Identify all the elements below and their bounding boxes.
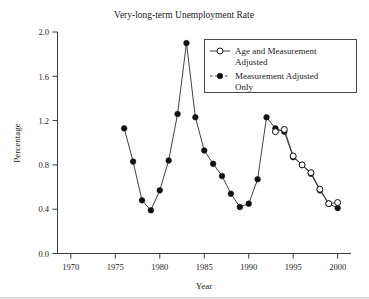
data-point-marker [219,173,225,179]
y-tick-label: 1.6 [38,72,49,82]
data-point-marker [272,129,278,135]
unemployment-rate-line-chart: Very-long-term Unemployment Rate 0.00.40… [0,0,369,299]
data-point-marker [264,114,270,120]
data-point-marker [335,200,341,206]
legend-label-2-line2: Only [235,82,254,92]
y-tick-label: 2.0 [38,27,49,37]
data-point-marker [139,198,145,204]
data-point-marker [157,188,163,194]
data-point-marker [317,186,323,192]
data-point-marker [255,177,261,183]
data-point-marker [166,158,172,164]
y-tick-label: 0.8 [38,160,49,170]
data-point-marker [281,126,287,132]
y-tick-label: 1.2 [38,116,49,126]
data-point-marker [326,201,332,207]
chart-title: Very-long-term Unemployment Rate [114,10,254,20]
y-tick-label: 0.4 [38,204,49,214]
y-tick-label: 0.0 [38,249,49,259]
data-point-marker [210,161,216,167]
data-point-marker [246,201,252,207]
x-tick-label: 1990 [240,262,257,272]
x-tick-label: 1985 [196,262,213,272]
data-point-marker [290,153,296,159]
data-point-marker [130,159,136,165]
data-point-marker [299,162,305,168]
data-point-marker [121,126,127,132]
chart-legend: Age and Measurement Adjusted Measurement… [205,40,357,93]
legend-label-2-line1: Measurement Adjusted [235,71,319,81]
x-axis-title: Year [196,281,213,291]
x-tick-label: 1995 [285,262,302,272]
data-point-marker [308,170,314,176]
data-point-marker [335,205,341,211]
x-tick-label: 1980 [151,262,168,272]
chart-figure: Very-long-term Unemployment Rate 0.00.40… [0,0,369,299]
data-point-marker [184,40,190,46]
legend-marker-open-circle-icon [217,48,223,54]
data-point-marker [193,114,199,120]
data-point-marker [228,191,234,197]
legend-label-1-line2: Adjusted [235,57,268,67]
data-point-marker [237,204,243,210]
legend-marker-filled-circle-icon [217,73,223,79]
data-point-marker [175,111,181,117]
data-point-marker [148,208,154,214]
x-tick-label: 1975 [107,262,124,272]
x-tick-label: 2000 [329,262,346,272]
bottom-divider [0,297,369,298]
y-axis-title: Percentage [12,123,22,162]
legend-label-1-line1: Age and Measurement [235,46,317,56]
x-tick-label: 1970 [62,262,79,272]
data-point-marker [201,148,207,154]
